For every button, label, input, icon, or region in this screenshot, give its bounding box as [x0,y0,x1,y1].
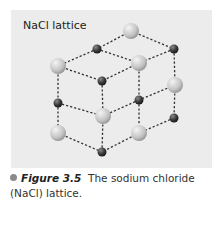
figure-label: Figure 3.5 [21,172,81,184]
chloride-ions [50,23,183,141]
bullet-icon [10,174,17,181]
bond-lines [58,31,175,152]
figure-caption: Figure 3.5 The sodium chloride (NaCl) la… [10,171,220,201]
sodium-ions [54,45,179,157]
